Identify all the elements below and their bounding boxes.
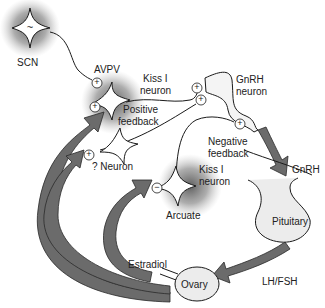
estradiol-feedback-arrows [37, 112, 170, 302]
minus-icon: − [153, 182, 161, 193]
kiss-neuron-arcuate-label-1: Kiss I [199, 164, 223, 175]
kiss-neuron-top-label-2: neuron [140, 85, 171, 96]
plus-icon: + [236, 118, 244, 129]
negative-feedback-label-1: Negative [208, 136, 247, 147]
positive-feedback-label-2: feedback [118, 116, 159, 127]
plus-icon: + [197, 94, 205, 105]
unknown-neuron-shape [100, 128, 138, 164]
ovary-label: Ovary [181, 279, 208, 290]
unknown-neuron-label: ? Neuron [92, 161, 133, 172]
gnrh-arrow [258, 127, 288, 176]
pituitary-label: Pituitary [272, 216, 308, 227]
kiss-neuron-top-label-1: Kiss I [143, 73, 167, 84]
positive-feedback-label-1: Positive [123, 104, 158, 115]
estradiol-label: Estradiol [128, 259, 167, 270]
scn-label: SCN [17, 57, 38, 68]
gnrh-label: GnRH [292, 164, 320, 175]
plus-icon: + [91, 101, 99, 112]
plus-icon: + [93, 77, 101, 88]
gnrh-neuron-label-1: GnRH [236, 74, 264, 85]
plus-icon: + [193, 82, 201, 93]
pituitary-shape [248, 178, 310, 242]
negative-feedback-label-2: feedback [208, 148, 249, 159]
lhfsh-label: LH/FSH [262, 276, 298, 287]
plus-icon: + [85, 149, 93, 160]
kiss-neuron-arcuate-label-2: neuron [199, 176, 230, 187]
arcuate-label: Arcuate [166, 210, 200, 221]
scn-wave-icon: ~ [24, 22, 36, 33]
gnrh-neuron-label-2: neuron [236, 86, 267, 97]
avpv-label: AVPV [94, 64, 120, 75]
